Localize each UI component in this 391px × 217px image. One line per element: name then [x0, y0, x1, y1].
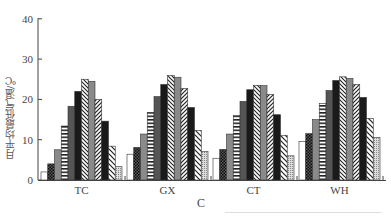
- bar: [195, 130, 202, 180]
- bar: [346, 78, 353, 180]
- bar: [306, 134, 313, 180]
- bar: [109, 146, 116, 180]
- bar: [319, 103, 326, 180]
- bar: [55, 150, 62, 180]
- bar: [333, 80, 340, 180]
- bar: [141, 134, 148, 180]
- bar: [367, 118, 374, 180]
- y-axis: 010203040: [22, 13, 42, 186]
- y-axis-title: 月平均最低气温/℃: [3, 62, 19, 172]
- bar: [340, 77, 347, 180]
- bar: [161, 84, 168, 180]
- x-axis-title: C: [197, 196, 205, 211]
- bar: [313, 120, 320, 180]
- bar: [353, 84, 360, 180]
- y-tick-label: 40: [22, 13, 34, 25]
- bar: [154, 97, 161, 180]
- bar: [240, 101, 247, 180]
- bar: [247, 90, 254, 180]
- bar: [281, 135, 288, 180]
- bar: [274, 115, 281, 180]
- bar: [326, 91, 333, 180]
- x-tick-label: TC: [74, 184, 88, 196]
- scan-artifact: [225, 212, 381, 213]
- bar: [233, 116, 240, 180]
- bar: [48, 164, 55, 180]
- bar: [287, 156, 294, 180]
- bar: [88, 81, 95, 180]
- y-tick-label: 10: [22, 134, 34, 146]
- bar: [188, 107, 195, 180]
- y-tick-label: 20: [22, 93, 34, 105]
- bar: [68, 106, 75, 180]
- bar: [174, 77, 181, 180]
- bar: [360, 97, 367, 180]
- bar: [181, 89, 188, 180]
- bar: [227, 134, 234, 180]
- bar: [267, 95, 274, 180]
- bar: [254, 85, 261, 180]
- x-tick-label: WH: [330, 184, 348, 196]
- bar: [127, 154, 134, 180]
- y-tick-label: 0: [28, 174, 34, 186]
- bar: [260, 86, 267, 180]
- bar: [41, 172, 48, 180]
- bars: [41, 76, 380, 180]
- bar: [102, 121, 109, 180]
- bar: [61, 126, 68, 180]
- bar: [220, 149, 227, 180]
- bar: [299, 141, 306, 180]
- x-tick-label: CT: [246, 184, 260, 196]
- bar: [95, 99, 102, 180]
- bar: [82, 79, 89, 180]
- bar: [168, 76, 175, 180]
- bar: [134, 147, 141, 180]
- bar-chart: 010203040 TCGXCTWH: [0, 0, 391, 217]
- bar: [373, 137, 380, 180]
- bar: [115, 167, 122, 180]
- bar: [147, 112, 154, 180]
- bar: [201, 151, 208, 180]
- bar: [75, 91, 82, 180]
- x-tick-label: GX: [160, 184, 176, 196]
- y-tick-label: 30: [22, 53, 34, 65]
- bar: [213, 158, 220, 180]
